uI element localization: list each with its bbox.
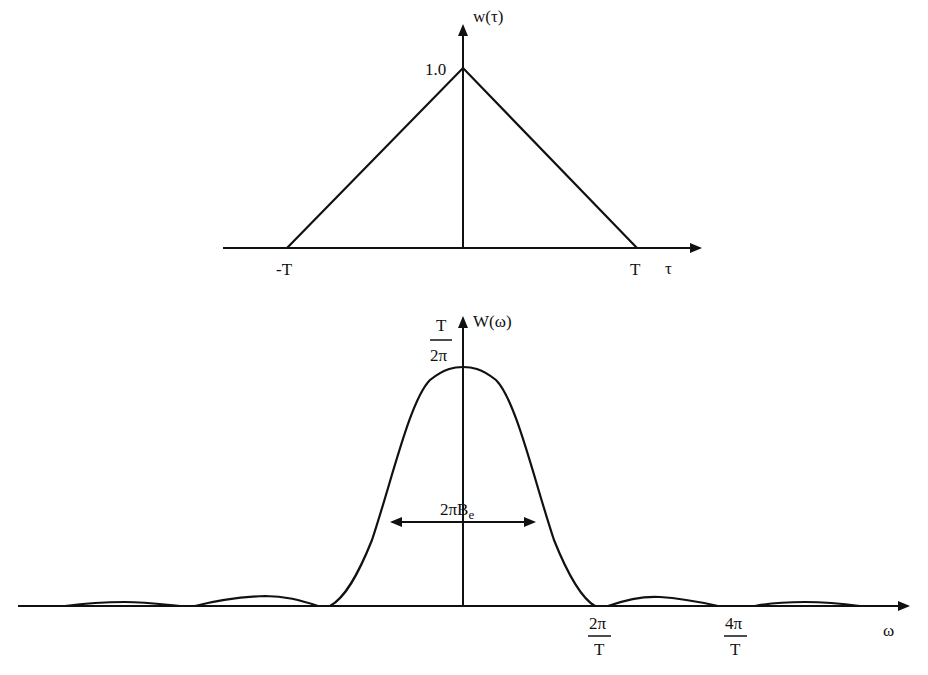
W-omega-label: W(ω) — [473, 312, 512, 331]
side-lobe-left-1 — [195, 596, 318, 606]
tick-2pi-denominator: T — [594, 640, 605, 659]
tick-2pi-numerator: 2π — [589, 614, 607, 633]
tau-axis-label: τ — [665, 259, 672, 278]
top-plot: w(τ) 1.0 -T T τ — [223, 7, 700, 279]
peak-label-denominator: 2π — [430, 346, 448, 365]
tick-4pi-numerator: 4π — [725, 614, 743, 633]
peak-label-numerator: T — [436, 316, 447, 335]
omega-axis-label: ω — [883, 621, 894, 640]
side-lobe-right-1 — [608, 597, 718, 606]
tick-label-T: T — [630, 260, 641, 279]
tick-4pi-denominator: T — [730, 640, 741, 659]
tick-label-neg-T: -T — [276, 260, 293, 279]
bottom-plot: 2πBe W(ω) T 2π 2π T 4π T ω — [18, 312, 908, 659]
peak-value-label: 1.0 — [425, 60, 446, 79]
w-tau-label: w(τ) — [473, 7, 503, 26]
bandwidth-label: 2πBe — [440, 500, 474, 522]
diagram-canvas: w(τ) 1.0 -T T τ 2πBe W(ω) T 2π 2π T 4π — [0, 0, 928, 675]
